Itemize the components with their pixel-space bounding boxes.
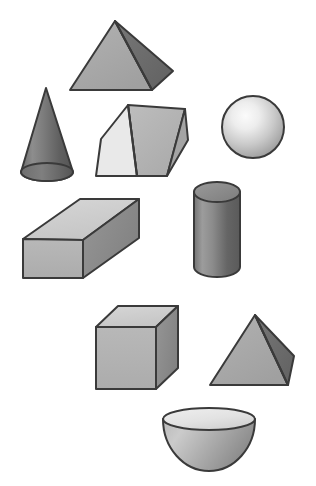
shapes-illustration-canvas — [0, 0, 316, 486]
shape-sphere[interactable] — [222, 96, 284, 158]
cube-front-face — [96, 327, 156, 389]
cone-base-ellipse-front — [21, 163, 73, 181]
shape-cube[interactable] — [96, 306, 178, 389]
shape-cone[interactable] — [21, 88, 73, 181]
shapes-svg — [0, 0, 316, 486]
shape-cuboid[interactable] — [23, 199, 139, 278]
shape-triangular-prism[interactable] — [96, 105, 188, 177]
sphere-body — [222, 96, 284, 158]
shape-pyramid-top[interactable] — [70, 21, 173, 90]
cylinder-body — [194, 192, 240, 277]
shape-cylinder[interactable] — [194, 182, 240, 277]
hemisphere-flat-top-face — [163, 408, 255, 430]
cuboid-front-face — [23, 239, 83, 278]
shape-hemisphere[interactable] — [163, 408, 255, 471]
shape-pyramid-bottom[interactable] — [210, 315, 294, 385]
cylinder-top-face — [194, 182, 240, 202]
